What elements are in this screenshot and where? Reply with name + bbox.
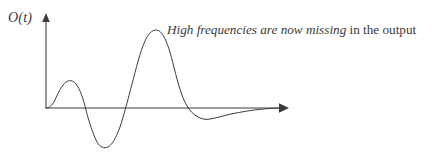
annotation-emphasis: High frequencies are now missing — [167, 22, 346, 37]
output-signal-curve — [46, 30, 282, 148]
y-axis-arrow-icon — [42, 13, 50, 22]
y-axis-label: O(t) — [8, 10, 32, 26]
waveform-figure: O(t) High frequencies are now missing in… — [0, 0, 442, 157]
annotation-rest: in the output — [346, 22, 416, 37]
annotation-text: High frequencies are now missing in the … — [167, 23, 416, 38]
